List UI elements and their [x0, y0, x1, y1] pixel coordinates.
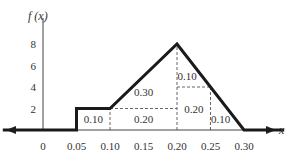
area-label: 0.10: [177, 70, 197, 82]
x-tick-label: 0: [40, 140, 46, 152]
x-tick-labels: 00.050.100.150.200.250.30: [40, 140, 254, 152]
x-tick-label: 0.10: [100, 140, 120, 152]
area-label: 0.10: [84, 113, 104, 125]
y-tick-label: 4: [31, 81, 37, 93]
x-tick-label: 0.15: [134, 140, 154, 152]
x-axis-label: x: [278, 123, 285, 137]
y-tick-label: 2: [31, 103, 37, 115]
y-tick-label: 6: [31, 60, 37, 72]
x-tick-label: 0.05: [67, 140, 87, 152]
area-label: 0.20: [184, 103, 204, 115]
y-tick-labels: 2468: [31, 38, 37, 115]
area-label: 0.10: [211, 113, 231, 125]
x-tick-label: 0.25: [201, 140, 221, 152]
density-chart: 00.050.100.150.200.250.30 2468 0.100.200…: [0, 0, 298, 155]
x-tick-label: 0.20: [167, 140, 187, 152]
area-label: 0.30: [134, 86, 154, 98]
y-axis-label: f (x): [28, 9, 48, 23]
area-labels: 0.100.200.300.100.200.10: [84, 70, 231, 125]
x-tick-label: 0.30: [234, 140, 254, 152]
area-label: 0.20: [134, 113, 154, 125]
y-tick-label: 8: [31, 38, 37, 50]
